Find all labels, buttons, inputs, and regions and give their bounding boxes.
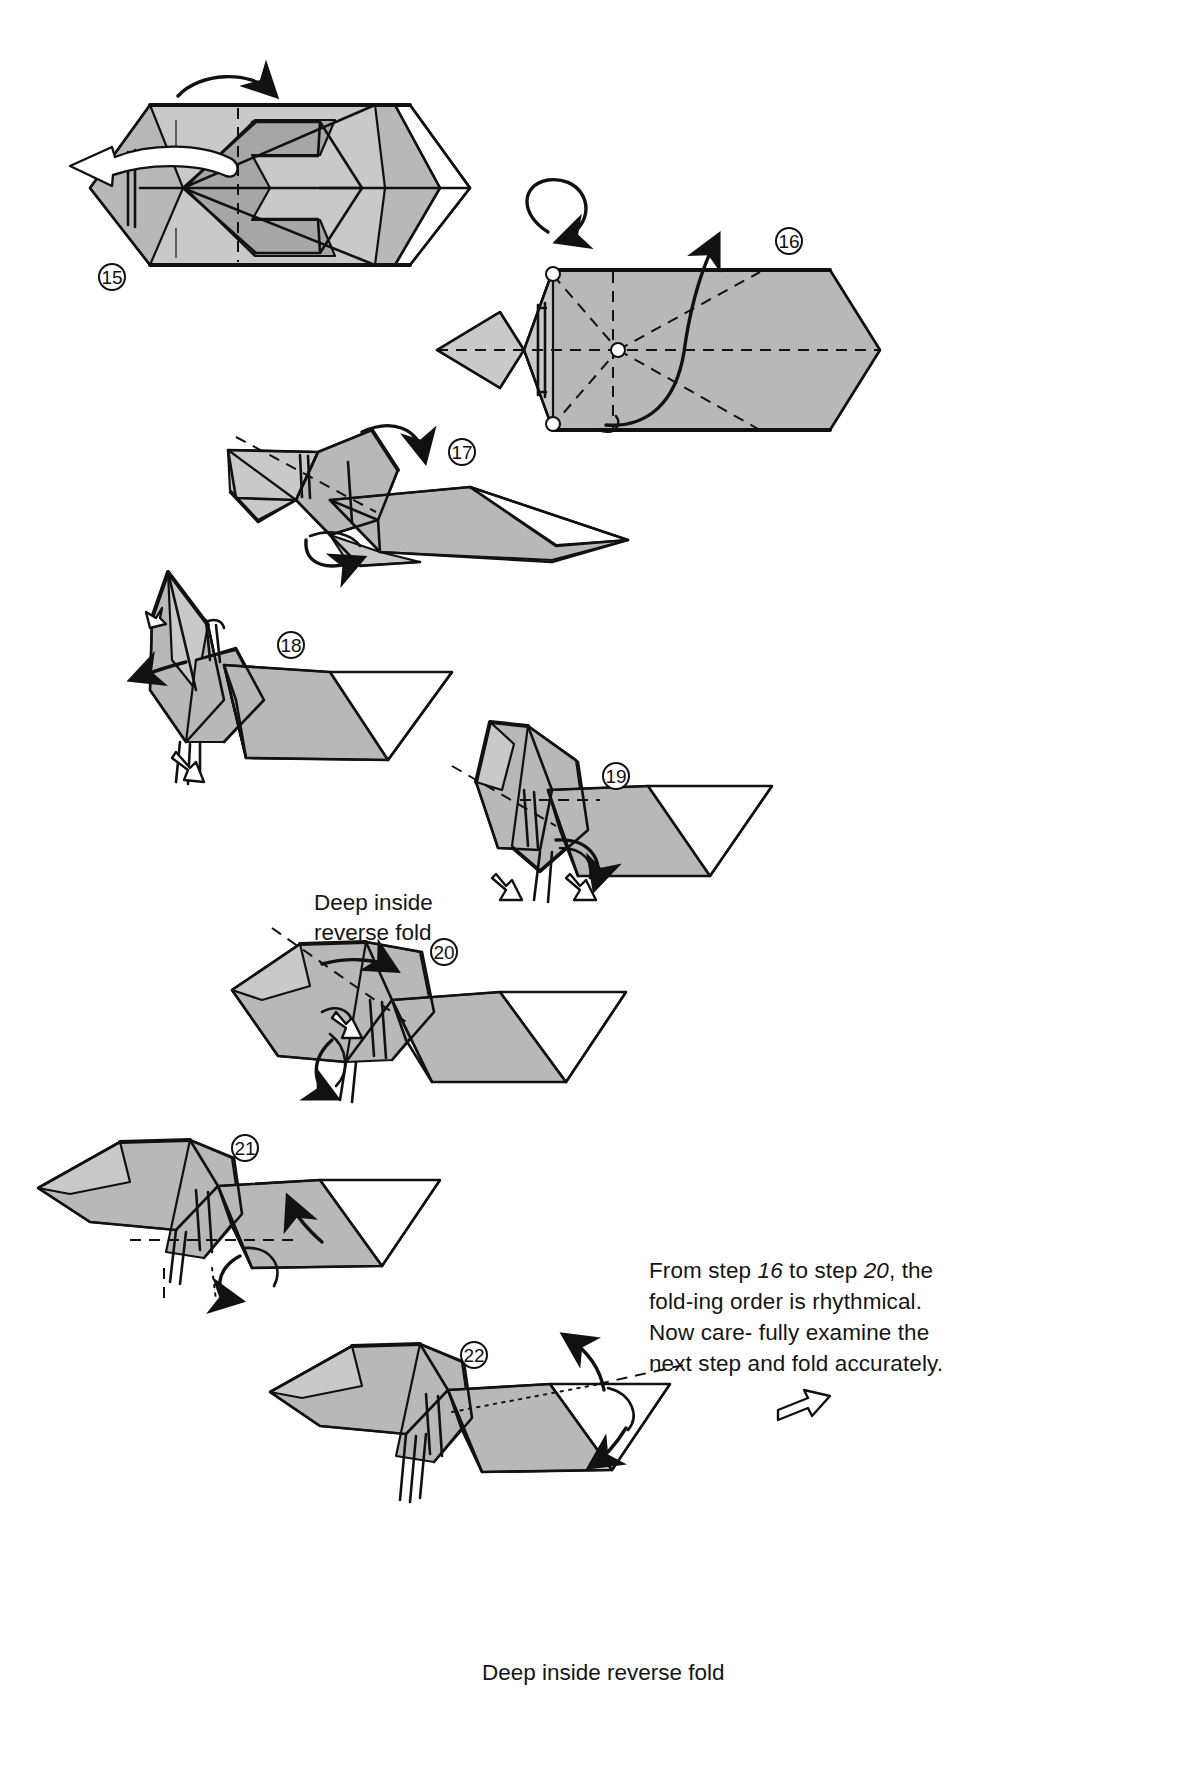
note-text-b: to step (783, 1258, 864, 1283)
step-18-figure: 18 (136, 572, 452, 784)
origami-instruction-page: 15 (0, 0, 1199, 1780)
step-21-figure: 21 (38, 1135, 440, 1302)
step-20-figure: 20 (232, 928, 626, 1102)
turn-over-arrow-15-16 (527, 180, 586, 240)
continue-arrow (778, 1390, 830, 1420)
step-number-18: 18 (280, 635, 301, 656)
step-16-figure: 16 (437, 228, 880, 432)
step-number-20: 20 (433, 942, 454, 963)
note-step-number-16: 16 (758, 1258, 783, 1283)
step-number-21: 21 (234, 1138, 255, 1159)
caption-deep-inside-reverse-fold-left: Deep inside reverse fold (314, 888, 433, 948)
step-number-19: 19 (605, 766, 626, 787)
step-19-figure: 19 (452, 722, 772, 902)
note-text-a: From step (649, 1258, 758, 1283)
note-paragraph: From step 16 to step 20, the fold-ing or… (649, 1255, 971, 1379)
step-15-figure: 15 (70, 77, 470, 290)
diagram-canvas: 15 (0, 0, 1199, 1780)
step-22-figure: 22 (270, 1338, 688, 1502)
step-number-15: 15 (101, 267, 122, 288)
caption-deep-inside-reverse-fold-bottom: Deep inside reverse fold (482, 1658, 725, 1688)
step-17-figure: 17 (228, 426, 628, 566)
step-number-17: 17 (451, 442, 472, 463)
note-text-line4: fold accurately. (792, 1351, 943, 1376)
note-step-number-20: 20 (864, 1258, 889, 1283)
step-number-16: 16 (778, 231, 799, 252)
step-number-22: 22 (463, 1345, 484, 1366)
